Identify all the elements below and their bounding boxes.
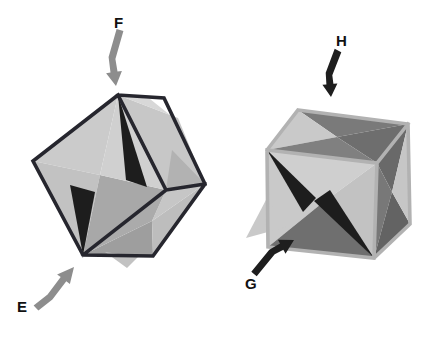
arrow-h [322,49,341,97]
left-figure-cube-on-corner [33,29,205,311]
arrow-e [34,267,74,311]
label-g: G [245,276,257,291]
label-e: E [17,299,27,314]
label-f: F [114,15,123,30]
diagram: F E H G [0,0,435,339]
arrow-f [106,29,123,86]
right-figure-cube-face-on [246,49,410,276]
diagram-canvas [0,0,435,339]
label-h: H [336,33,347,48]
